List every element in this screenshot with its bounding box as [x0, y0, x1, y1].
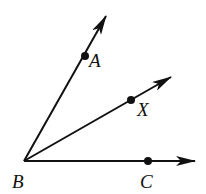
rays-group — [24, 16, 195, 161]
ray-BX — [24, 77, 171, 161]
vertex-label-b: B — [12, 171, 24, 192]
point-label-x: X — [136, 99, 150, 120]
angle-diagram: B A X C — [0, 0, 206, 194]
point-c-dot — [144, 157, 152, 165]
point-x-dot — [127, 96, 135, 104]
point-label-a: A — [87, 50, 101, 71]
point-a-dot — [81, 52, 89, 60]
ray-BA — [24, 16, 106, 161]
point-label-c: C — [140, 171, 153, 192]
labels-group: B A X C — [12, 50, 153, 192]
